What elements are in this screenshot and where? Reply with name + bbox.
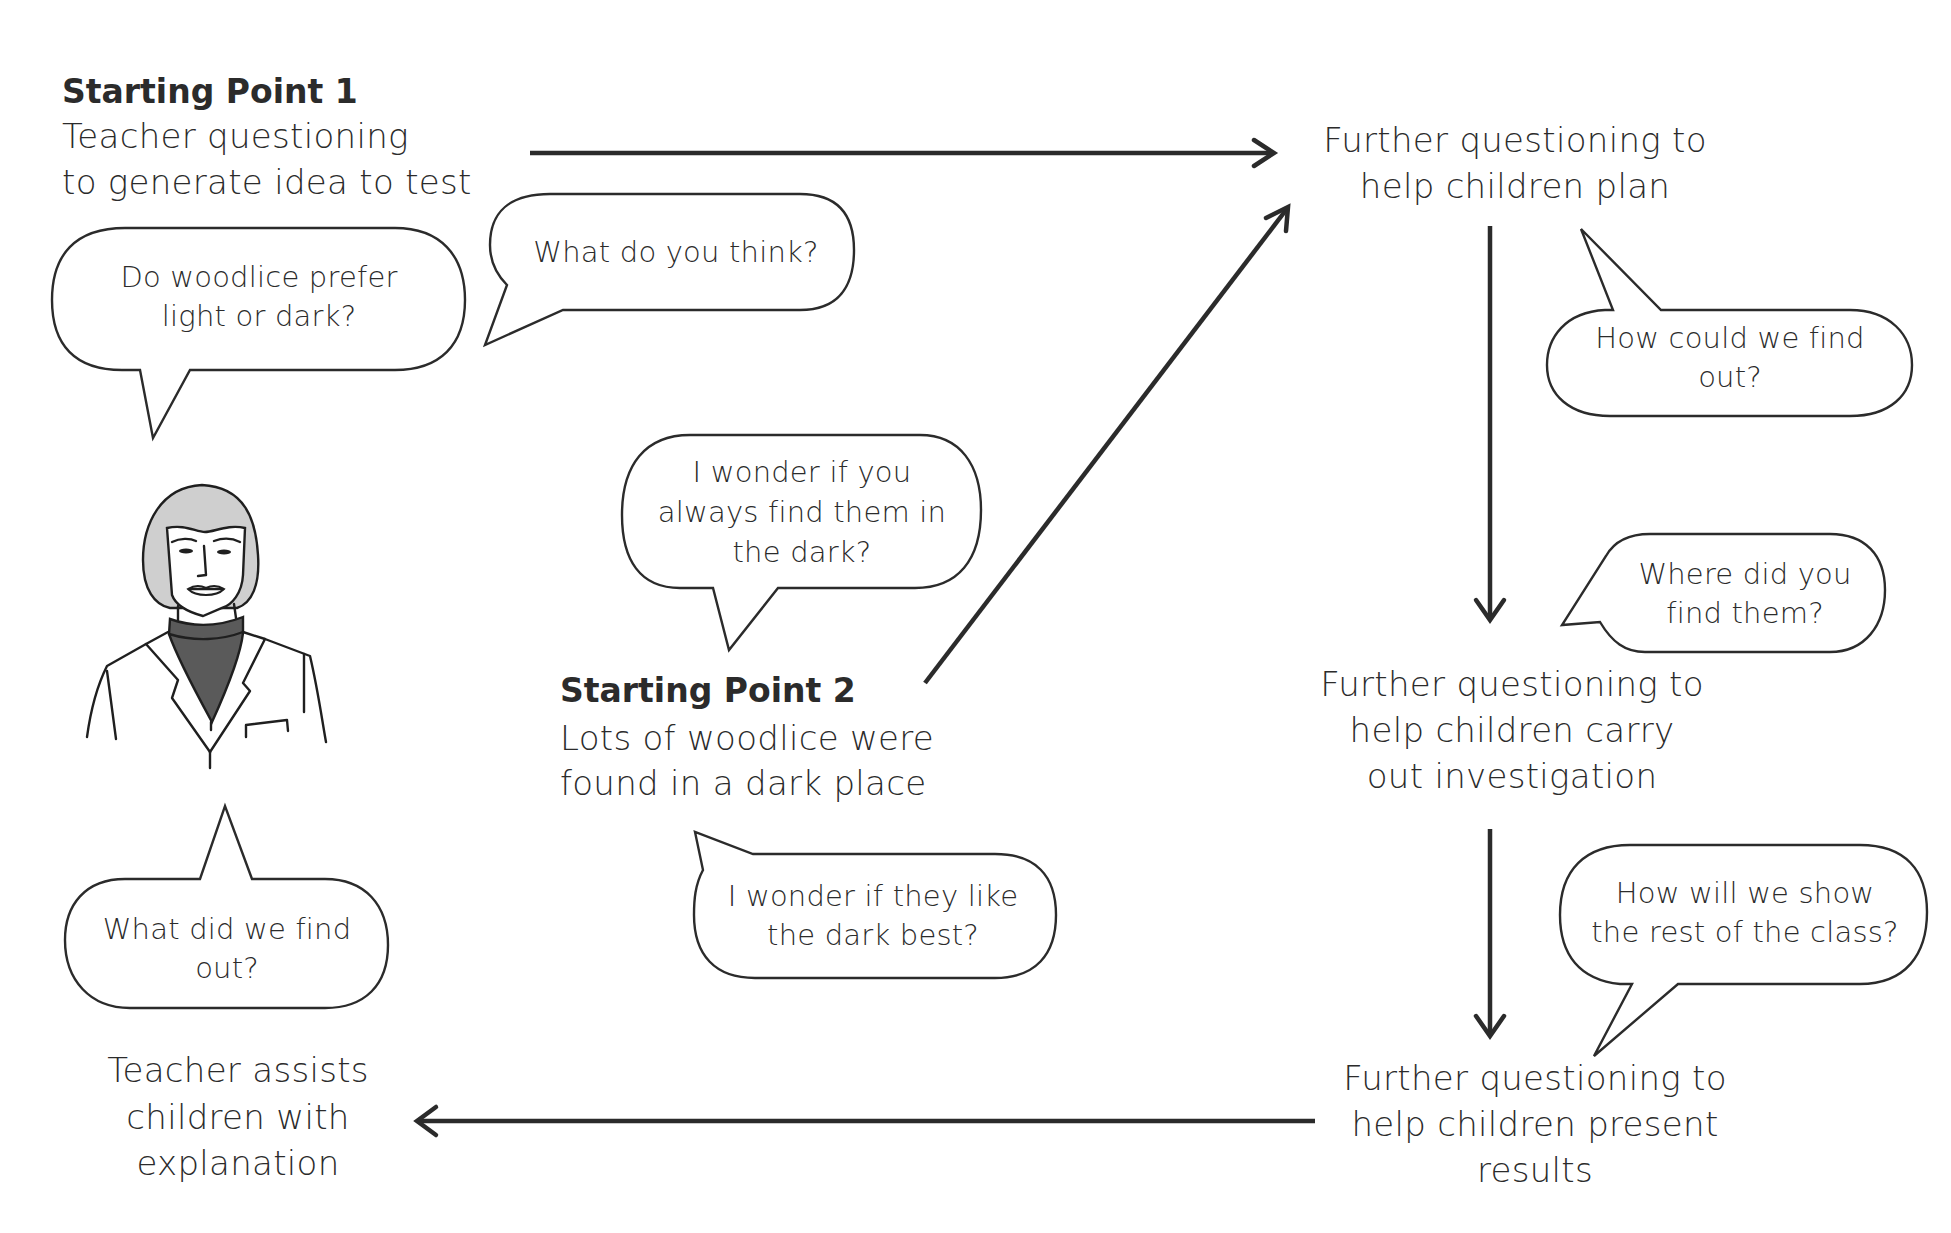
starting-point-1-line: Teacher questioning <box>62 116 409 156</box>
arrow-up-right-icon <box>925 207 1288 683</box>
step-investigate-line: out investigation <box>1367 756 1657 796</box>
bubble-text: find them? <box>1666 596 1824 630</box>
step-explain: Teacher assists children with explanatio… <box>107 1050 369 1183</box>
arrow-down-icon <box>1476 829 1504 1036</box>
step-explain-line: Teacher assists <box>107 1050 369 1090</box>
bubble-text: What do you think? <box>533 235 818 269</box>
bubble-text: Do woodlice prefer <box>120 260 397 294</box>
speech-bubble-show: How will we show the rest of the class? <box>1560 845 1927 1056</box>
speech-bubble-where: Where did you find them? <box>1562 534 1885 652</box>
starting-point-2: Starting Point 2 Lots of woodlice were f… <box>560 671 934 803</box>
diagram-canvas: Starting Point 1 Teacher questioning to … <box>0 0 1951 1233</box>
bubble-text: What did we find <box>103 912 352 946</box>
bubble-text: the rest of the class? <box>1591 915 1898 949</box>
step-present: Further questioning to help children pre… <box>1343 1058 1727 1190</box>
bubble-text: Where did you <box>1638 557 1851 591</box>
starting-point-2-line: Lots of woodlice were <box>560 718 934 758</box>
bubble-text: always find them in <box>658 495 946 529</box>
step-plan-line: help children plan <box>1360 166 1670 206</box>
starting-point-1: Starting Point 1 Teacher questioning to … <box>62 72 472 202</box>
step-explain-line: explanation <box>136 1143 339 1183</box>
bubble-text: the dark best? <box>767 918 979 952</box>
speech-bubble-what-found: What did we find out? <box>65 806 388 1008</box>
speech-bubble-find-out: How could we find out? <box>1547 229 1912 416</box>
step-investigate: Further questioning to help children car… <box>1320 664 1704 796</box>
arrow-right-icon <box>530 140 1274 166</box>
bubble-text: I wonder if you <box>693 455 912 489</box>
arrow-down-icon <box>1476 226 1504 620</box>
bubble-text: I wonder if they like <box>728 879 1018 913</box>
step-plan: Further questioning to help children pla… <box>1323 120 1707 206</box>
arrow-left-icon <box>417 1107 1315 1135</box>
step-investigate-line: help children carry <box>1350 710 1675 750</box>
speech-bubble-wonder-like: I wonder if they like the dark best? <box>694 832 1056 978</box>
step-present-line: results <box>1477 1150 1593 1190</box>
bubble-text: How will we show <box>1616 876 1875 910</box>
bubble-text: out? <box>1698 360 1762 394</box>
speech-bubble-wonder-always: I wonder if you always find them in the … <box>622 435 981 650</box>
starting-point-2-line: found in a dark place <box>560 763 926 803</box>
bubble-text: How could we find <box>1595 321 1864 355</box>
step-plan-line: Further questioning to <box>1323 120 1707 160</box>
starting-point-1-title: Starting Point 1 <box>62 72 358 111</box>
step-present-line: help children present <box>1351 1104 1718 1144</box>
starting-point-1-line: to generate idea to test <box>62 162 472 202</box>
bubble-text: the dark? <box>733 535 872 569</box>
speech-bubble-prefer: Do woodlice prefer light or dark? <box>52 228 465 438</box>
speech-bubble-think: What do you think? <box>485 194 854 345</box>
step-investigate-line: Further questioning to <box>1320 664 1704 704</box>
bubble-text: light or dark? <box>162 299 356 333</box>
step-explain-line: children with <box>126 1097 349 1137</box>
starting-point-2-title: Starting Point 2 <box>560 671 856 710</box>
step-present-line: Further questioning to <box>1343 1058 1727 1098</box>
teacher-illustration-icon <box>87 485 326 768</box>
bubble-text: out? <box>195 951 259 985</box>
